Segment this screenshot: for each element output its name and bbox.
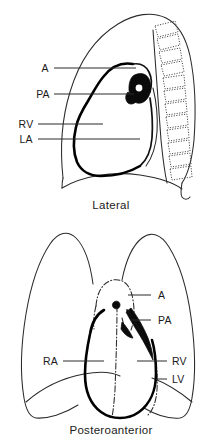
figure-lateral: A PA RV LA Lateral	[0, 0, 222, 222]
diaphragm	[62, 174, 182, 189]
label-lateral-a: A	[41, 62, 48, 74]
caption-posteroanterior: Posteroanterior	[69, 424, 152, 436]
caption-lateral: Lateral	[92, 199, 129, 211]
anterior-chest-wall-lower	[62, 178, 63, 188]
diagram-canvas: A PA RV LA Lateral	[0, 0, 222, 445]
label-pa-rv: RV	[172, 355, 187, 367]
label-lateral-la: LA	[19, 133, 32, 145]
label-lateral-rv: RV	[19, 118, 34, 130]
cardiac-silhouette-pa	[85, 310, 156, 418]
right-hemidiaphragm	[26, 372, 120, 402]
leader-lines-lateral	[38, 68, 140, 139]
left-lung-field	[122, 234, 195, 418]
spine-midline	[112, 306, 117, 417]
pulmonary-artery-shadow	[121, 308, 153, 360]
posterior-chest-wall	[181, 183, 190, 199]
label-pa-ra: RA	[43, 355, 58, 367]
posterior-cardiac-border	[140, 98, 152, 166]
label-lateral-pa: PA	[36, 88, 50, 100]
label-pa-lv: LV	[172, 373, 184, 385]
label-pa-pa: PA	[158, 314, 172, 326]
figure-posteroanterior: A PA RA RV LV Posteroanterior	[0, 222, 222, 445]
hilar-shadow	[126, 74, 151, 104]
aortic-knob-marker	[113, 301, 121, 309]
vertebral-column	[153, 21, 192, 183]
label-pa-a: A	[158, 289, 165, 301]
right-lung-field	[22, 233, 93, 418]
